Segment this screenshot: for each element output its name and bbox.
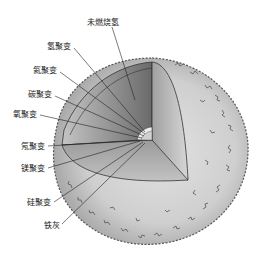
label-iron-ash: 铁灰 — [44, 221, 60, 231]
label-magnesium-fusion: 镁聚变 — [21, 164, 45, 174]
label-silicon-fusion: 硅聚变 — [27, 198, 51, 208]
label-carbon-fusion: 碳聚变 — [28, 90, 52, 100]
label-hydrogen-fusion: 氢聚变 — [47, 42, 71, 52]
label-neon-fusion: 氖聚变 — [21, 142, 45, 152]
label-unburned-hydrogen: 未燃烧氢 — [87, 18, 119, 28]
star-structure-diagram — [0, 0, 265, 263]
label-oxygen-fusion: 氧聚变 — [13, 110, 37, 120]
label-helium-fusion: 氦聚变 — [33, 66, 57, 76]
